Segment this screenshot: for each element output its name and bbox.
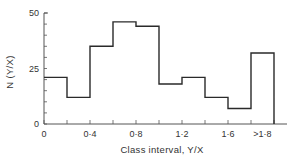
y-tick-label: 25 [29, 64, 39, 74]
x-tick-label: 1·6 [221, 129, 234, 139]
x-tick-label: 0·8 [129, 129, 142, 139]
x-tick-label: >1·8 [253, 129, 271, 139]
axis-labels: 0255000·40·81·21·6>1·8 [29, 8, 272, 139]
histogram-outline [44, 22, 274, 124]
histogram-step-line [44, 22, 274, 124]
x-tick-label: 1·2 [175, 129, 188, 139]
y-tick-label: 0 [34, 119, 39, 129]
x-tick-label: 0·4 [83, 129, 96, 139]
y-tick-label: 50 [29, 8, 39, 18]
y-axis-title: N (Y/X) [4, 55, 15, 88]
histogram-chart: 0255000·40·81·21·6>1·8 Class interval, Y… [0, 0, 295, 163]
x-tick-label: 0 [41, 129, 46, 139]
x-axis-title: Class interval, Y/X [120, 144, 204, 155]
